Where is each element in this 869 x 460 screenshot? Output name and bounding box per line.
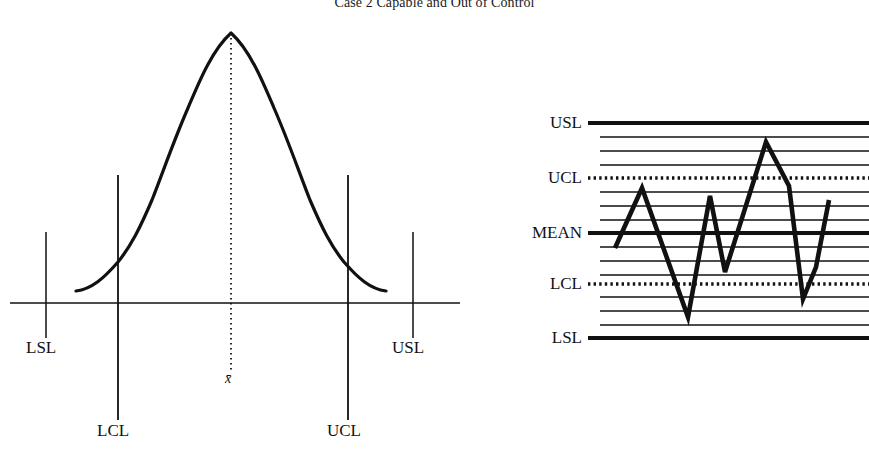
measurement-series-line xyxy=(615,142,829,317)
ctrl-label-ucl: UCL xyxy=(520,168,582,188)
normal-distribution-curve xyxy=(76,33,386,291)
ctrl-label-mean: MEAN xyxy=(512,223,582,243)
process-distribution-panel: LSL LCL x̄ UCL USL xyxy=(0,0,480,460)
dist-label-ucl: UCL xyxy=(327,421,361,441)
distribution-plot xyxy=(0,0,480,460)
dist-label-usl: USL xyxy=(392,338,424,358)
dist-label-lsl: LSL xyxy=(26,338,56,358)
ctrl-label-usl: USL xyxy=(520,113,582,133)
dist-label-xbar: x̄ xyxy=(225,371,231,387)
dist-label-lcl: LCL xyxy=(97,421,129,441)
control-chart-panel: USL UCL MEAN LCL LSL xyxy=(520,0,869,460)
ctrl-label-lsl: LSL xyxy=(520,328,582,348)
ctrl-label-lcl: LCL xyxy=(520,274,582,294)
figure-canvas: Case 2 Capable and Out of Control LSL LC… xyxy=(0,0,869,460)
